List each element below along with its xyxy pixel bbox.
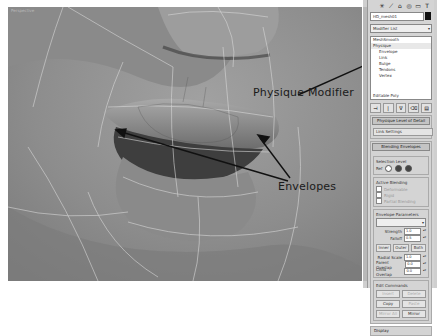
display-icon[interactable]: ▭ bbox=[414, 2, 422, 10]
envelope-parameters-group: Envelope Parameters ▾ Strength 1.0 ▴▾ Fa… bbox=[373, 209, 429, 278]
insert-button[interactable]: Insert bbox=[376, 290, 400, 298]
child-overlap-spinner[interactable]: Child Overlap 0.0 ▴▾ bbox=[376, 268, 426, 275]
utilities-icon[interactable]: T bbox=[423, 2, 431, 10]
chevron-down-icon: ▾ bbox=[422, 219, 424, 226]
partial-blending-checkbox[interactable]: Partial Blending bbox=[376, 198, 426, 204]
object-color-swatch[interactable] bbox=[425, 12, 431, 20]
rollout-display: Display bbox=[370, 326, 432, 336]
rollout-blending-envelopes: Blending Envelopes Selection Level Ref A… bbox=[370, 141, 432, 324]
mirror-button[interactable]: Mirror bbox=[402, 310, 426, 318]
rollout-header-display[interactable]: Display bbox=[372, 328, 430, 334]
stack-item-vertex[interactable]: Vertex bbox=[371, 73, 431, 79]
callout-physique-modifier: Physique Modifier bbox=[253, 86, 354, 99]
spinner-arrows-icon[interactable]: ▴▾ bbox=[423, 269, 426, 275]
paste-button[interactable]: Paste bbox=[402, 300, 426, 308]
rollout-header-blending[interactable]: Blending Envelopes bbox=[372, 143, 430, 151]
viewport-perspective[interactable]: Perspective bbox=[8, 7, 362, 281]
head-model-render bbox=[8, 7, 362, 281]
mirror-all-button[interactable]: Mirror All bbox=[376, 310, 400, 318]
edit-commands-group: Edit Commands Insert Delete Copy Paste M… bbox=[373, 280, 429, 321]
object-name-value: HD_mesh01 bbox=[373, 14, 397, 19]
configure-sets-icon[interactable]: ▤ bbox=[421, 103, 432, 113]
copy-button[interactable]: Copy bbox=[376, 300, 400, 308]
control-point-icon[interactable] bbox=[405, 165, 412, 172]
both-button[interactable]: Both bbox=[411, 244, 426, 252]
modifier-list-dropdown[interactable]: Modifier List ▾ bbox=[370, 24, 432, 33]
inner-button[interactable]: Inner bbox=[376, 244, 391, 252]
command-tabs: ✳ ⟋ ⌂ ◎ ▭ T bbox=[368, 0, 434, 11]
viewport-label: Perspective bbox=[11, 8, 34, 13]
make-unique-icon[interactable]: ∇ bbox=[396, 103, 407, 113]
pin-stack-icon[interactable]: ⊣ bbox=[370, 103, 381, 113]
remove-modifier-icon[interactable]: ⌫ bbox=[408, 103, 419, 113]
show-end-result-icon[interactable]: | bbox=[383, 103, 394, 113]
spinner-arrows-icon[interactable]: ▴▾ bbox=[423, 236, 426, 242]
link-settings-button[interactable]: Link Settings bbox=[373, 128, 433, 136]
stack-item-editable-poly[interactable]: Editable Poly bbox=[371, 93, 399, 99]
modify-icon[interactable]: ⟋ bbox=[387, 2, 395, 10]
hierarchy-icon[interactable]: ⌂ bbox=[396, 2, 404, 10]
spinner-arrows-icon[interactable]: ▴▾ bbox=[423, 229, 426, 235]
create-icon[interactable]: ✳ bbox=[378, 2, 386, 10]
spinner-arrows-icon[interactable]: ▴▾ bbox=[423, 255, 426, 261]
link-level-icon[interactable] bbox=[385, 165, 392, 172]
modifier-stack[interactable]: MeshSmooth Physique Envelope Link Bulge … bbox=[370, 36, 432, 100]
motion-icon[interactable]: ◎ bbox=[405, 2, 413, 10]
object-name-field[interactable]: HD_mesh01 bbox=[370, 12, 424, 21]
falloff-spinner[interactable]: Falloff 0.5 ▴▾ bbox=[376, 235, 426, 242]
outer-button[interactable]: Outer bbox=[393, 244, 408, 252]
selection-level-group: Selection Level Ref bbox=[373, 156, 429, 175]
strength-spinner[interactable]: Strength 1.0 ▴▾ bbox=[376, 228, 426, 235]
rollout-header-lod[interactable]: Physique Level of Detail bbox=[372, 117, 430, 125]
rollout-level-of-detail: Physique Level of Detail Link Settings bbox=[370, 115, 432, 139]
envelope-type-dropdown[interactable]: ▾ bbox=[376, 218, 426, 227]
command-panel: ✳ ⟋ ⌂ ◎ ▭ T HD_mesh01 Modifier List ▾ Me… bbox=[367, 0, 434, 288]
chevron-down-icon: ▾ bbox=[428, 25, 430, 32]
stack-tools: ⊣ | ∇ ⌫ ▤ bbox=[368, 102, 434, 113]
callout-envelopes: Envelopes bbox=[278, 180, 336, 193]
spinner-arrows-icon[interactable]: ▴▾ bbox=[423, 262, 426, 268]
active-blending-group: Active Blending Deformable Rigid Partial… bbox=[373, 177, 429, 207]
delete-button[interactable]: Delete bbox=[402, 290, 426, 298]
cross-section-icon[interactable] bbox=[395, 165, 402, 172]
modifier-list-label: Modifier List bbox=[373, 26, 397, 31]
